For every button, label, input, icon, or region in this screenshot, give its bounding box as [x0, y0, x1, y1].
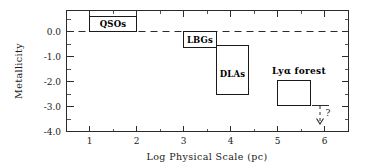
data-box-label-dlas: DLAs	[220, 69, 246, 79]
data-box-lya-forest: Lyα forest	[272, 66, 326, 106]
lya-forest-uncertainty-question-mark: ?	[326, 108, 331, 118]
data-box-dlas: DLAs	[217, 46, 249, 95]
data-box-lbgs: LBGs	[184, 32, 217, 48]
x-tick-label: 4	[228, 136, 234, 146]
data-box-qsos: QSOs	[90, 17, 137, 32]
y-axis-minor-ticks	[67, 20, 71, 120]
y-axis-right-ticks	[342, 20, 349, 132]
x-tick-label: 3	[181, 136, 187, 146]
y-tick-label: 0.0	[47, 27, 62, 37]
data-box-label-lbgs: LBGs	[187, 35, 213, 45]
y-axis-title: Metallicity	[13, 43, 24, 99]
lya-forest-lower-limit-arrow: ?	[312, 106, 331, 125]
y-axis-tick-labels: 0.0 -1.0 -2.0 -3.0 -4.0	[44, 27, 62, 137]
y-axis-major-ticks	[67, 32, 74, 132]
chart-canvas: 0.0 -1.0 -2.0 -3.0 -4.0 1 2 3 4 5 6 Log …	[0, 0, 371, 168]
y-tick-label: -3.0	[44, 102, 62, 112]
data-box-label-lya-forest: Lyα forest	[272, 66, 326, 76]
x-tick-label: 2	[134, 136, 140, 146]
x-axis-major-ticks	[90, 126, 325, 132]
x-tick-label: 5	[275, 136, 281, 146]
x-tick-label: 6	[322, 136, 328, 146]
y-tick-label: -1.0	[44, 52, 62, 62]
y-tick-label: -2.0	[44, 77, 62, 87]
y-tick-label: -4.0	[44, 127, 62, 137]
metallicity-vs-scale-figure: 0.0 -1.0 -2.0 -3.0 -4.0 1 2 3 4 5 6 Log …	[0, 0, 371, 168]
x-tick-label: 1	[87, 136, 93, 146]
data-box-label-qsos: QSOs	[100, 19, 127, 29]
x-axis-tick-labels: 1 2 3 4 5 6	[87, 136, 328, 146]
x-axis-title: Log Physical Scale (pc)	[146, 151, 267, 162]
x-axis-top-ticks	[90, 11, 325, 17]
